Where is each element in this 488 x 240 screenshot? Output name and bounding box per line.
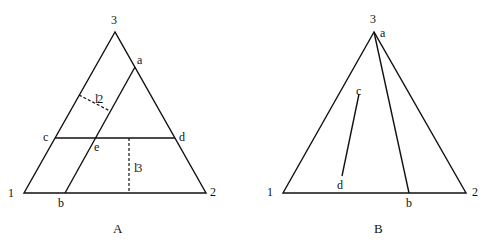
line-ab <box>374 32 409 193</box>
vertex-3-label: 3 <box>370 12 376 26</box>
caption-a: A <box>113 221 123 236</box>
l3-label: l3 <box>134 161 142 175</box>
point-d-label: d <box>337 178 343 192</box>
ternary-diagrams: 3 1 2 a b c d e l2 l3 A 3 1 2 a b c d B <box>0 0 488 240</box>
diagram-a: 3 1 2 a b c d e l2 l3 A <box>8 13 216 236</box>
point-c-label: c <box>43 130 48 144</box>
point-b-label: b <box>406 196 412 210</box>
vertex-3-label: 3 <box>111 13 117 27</box>
line-cd <box>342 94 359 176</box>
triangle-a <box>24 32 206 193</box>
point-c-label: c <box>356 84 361 98</box>
point-a-label: a <box>137 53 143 67</box>
point-a-label: a <box>380 26 386 40</box>
caption-b: B <box>374 221 383 236</box>
triangle-b <box>283 32 466 193</box>
diagram-b: 3 1 2 a b c d B <box>267 12 478 236</box>
point-b-label: b <box>58 196 64 210</box>
point-e-label: e <box>94 140 99 154</box>
vertex-1-label: 1 <box>8 186 14 200</box>
vertex-2-label: 2 <box>472 185 478 199</box>
vertex-2-label: 2 <box>210 185 216 199</box>
point-d-label: d <box>179 130 185 144</box>
line-ab <box>65 67 135 193</box>
vertex-1-label: 1 <box>267 185 273 199</box>
l2-label: l2 <box>95 92 103 106</box>
